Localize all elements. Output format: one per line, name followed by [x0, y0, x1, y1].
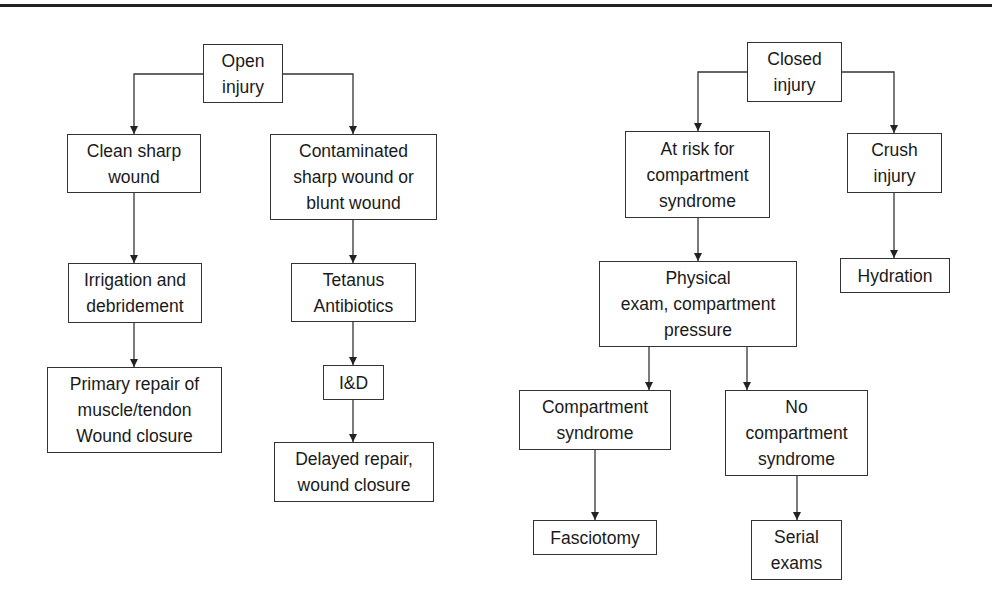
arrow-closed-to-crush	[842, 72, 894, 133]
node-clean-sharp-wound: Clean sharp wound	[67, 134, 201, 193]
arrow-open-to-contaminated	[283, 74, 353, 134]
node-crush-injury: Crush injury	[847, 133, 942, 193]
node-i-and-d: I&D	[323, 365, 384, 400]
node-open-injury: Open injury	[203, 44, 283, 103]
node-contaminated-wound: Contaminated sharp wound or blunt wound	[270, 134, 437, 220]
arrow-open-to-clean	[134, 74, 203, 134]
node-physical-exam: Physical exam, compartment pressure	[599, 261, 797, 347]
node-compartment-syndrome: Compartment syndrome	[519, 390, 671, 450]
node-tetanus-antibiotics: Tetanus Antibiotics	[291, 263, 416, 322]
node-closed-injury: Closed injury	[747, 42, 842, 102]
node-serial-exams: Serial exams	[751, 520, 842, 580]
node-no-compartment-syndrome: No compartment syndrome	[725, 390, 868, 476]
arrow-closed-to-atrisk	[698, 72, 747, 131]
node-fasciotomy: Fasciotomy	[533, 520, 657, 555]
node-hydration: Hydration	[840, 258, 950, 293]
node-primary-repair: Primary repair of muscle/tendon Wound cl…	[47, 367, 222, 453]
node-delayed-repair: Delayed repair, wound closure	[274, 442, 434, 502]
node-at-risk-compartment: At risk for compartment syndrome	[625, 131, 770, 218]
node-irrigation-debridement: Irrigation and debridement	[68, 263, 202, 323]
